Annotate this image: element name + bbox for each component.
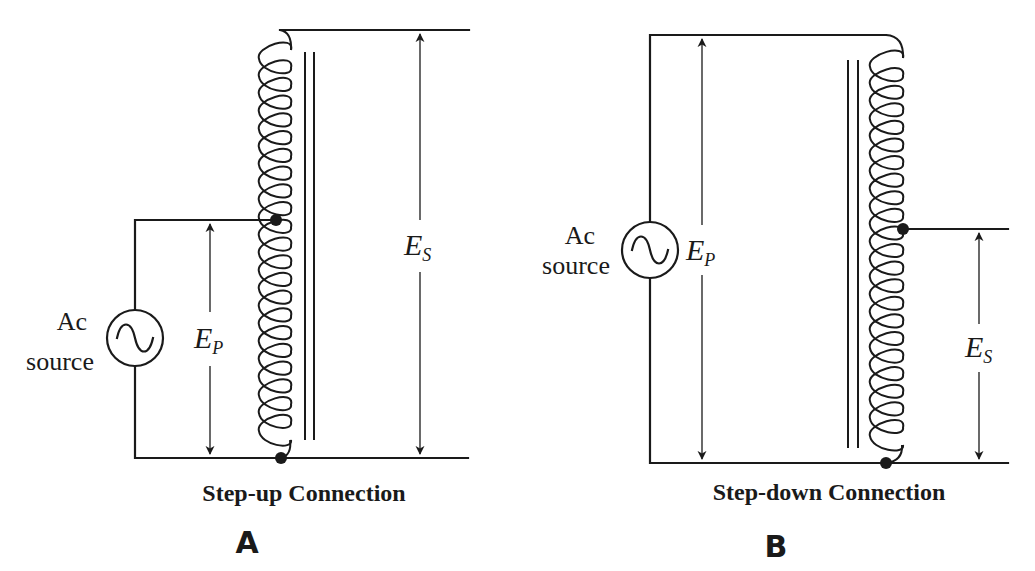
primary-voltage-label: EP: [685, 233, 715, 270]
source-label: Ac: [565, 221, 595, 250]
bottom-common-wire: [135, 366, 468, 458]
primary-top-wire: [135, 220, 276, 310]
primary-top-wire: [650, 35, 886, 222]
junction-dot-icon: [270, 214, 282, 226]
transformer-connections-figure: EP ES Ac source Step-up Connection A: [0, 0, 1035, 571]
coil-top-lead: [886, 35, 903, 58]
diagram-caption: Step-up Connection: [202, 480, 405, 506]
transformer-coil-icon: [870, 51, 904, 451]
transformer-coil-icon: [259, 42, 292, 445]
diagram-caption: Step-down Connection: [713, 479, 946, 505]
diagram-letter: A: [235, 525, 259, 560]
junction-dot-icon: [275, 452, 287, 464]
source-label: Ac: [57, 307, 87, 336]
ac-sine-source-icon: [622, 222, 678, 278]
diagram-a-step-up: EP ES Ac source Step-up Connection A: [26, 30, 469, 560]
coil-top-lead: [280, 30, 291, 50]
primary-voltage-label: EP: [193, 321, 223, 358]
source-label: source: [26, 347, 94, 376]
bottom-common-wire: [650, 278, 1008, 463]
source-label: source: [542, 251, 610, 280]
secondary-voltage-label: ES: [403, 228, 431, 265]
junction-dot-icon: [880, 457, 892, 469]
junction-dot-icon: [897, 223, 909, 235]
diagram-b-step-down: EP ES Ac source Step-down Connection B: [542, 35, 1008, 564]
ac-sine-source-icon: [107, 310, 163, 366]
diagram-letter: B: [765, 529, 788, 564]
secondary-voltage-label: ES: [964, 330, 992, 367]
